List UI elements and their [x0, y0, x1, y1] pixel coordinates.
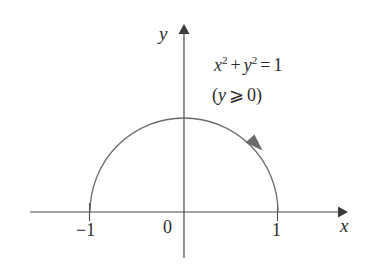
equation-annotation: x2+y2=1	[214, 56, 282, 74]
condition-close-paren: )	[256, 85, 262, 105]
x-tick-label-1: 1	[272, 221, 281, 239]
x-tick-label-minus-1: −1	[76, 221, 95, 239]
semicircle-figure: y x 0 −1 1 x2+y2=1 (y⩾0)	[0, 0, 375, 270]
origin-label: 0	[163, 218, 172, 236]
equation-y-term: y	[244, 55, 252, 75]
arc-direction-arrowhead	[246, 135, 263, 151]
equation-y-exponent: 2	[252, 54, 258, 66]
condition-relation-symbol: ⩾	[229, 85, 244, 105]
equation-equals-operator: =	[260, 55, 270, 75]
equation-right-hand-side: 1	[273, 55, 282, 75]
equation-plus-operator: +	[231, 55, 241, 75]
condition-value: 0	[247, 85, 256, 105]
equation-x-exponent: 2	[222, 54, 228, 66]
y-axis-arrowhead	[179, 24, 190, 34]
x-axis-label: x	[340, 216, 348, 235]
condition-variable: y	[218, 85, 226, 105]
y-axis-label: y	[159, 24, 167, 43]
figure-canvas	[0, 0, 375, 270]
condition-annotation: (y⩾0)	[212, 86, 262, 104]
equation-x-term: x	[214, 55, 222, 75]
